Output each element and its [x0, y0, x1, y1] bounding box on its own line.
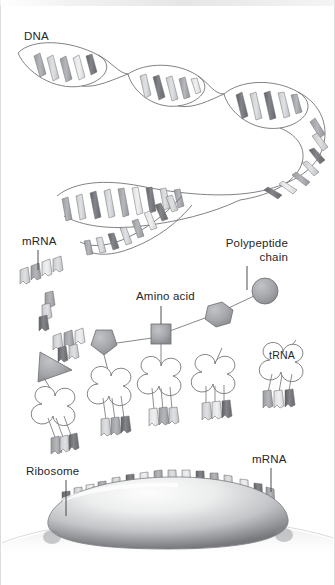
diagram-canvas: tRNA	[0, 0, 335, 585]
trna-label: tRNA	[269, 349, 295, 361]
label-mrna-lower: mRNA	[252, 453, 287, 465]
label-polypeptide-line1: Polypeptide	[226, 237, 288, 249]
amino-acid-square	[151, 324, 171, 344]
label-amino-acid: Amino acid	[136, 290, 195, 302]
amino-acid-circle	[252, 278, 278, 304]
label-mrna-upper: mRNA	[22, 235, 57, 247]
protein-synthesis-diagram: tRNA	[0, 0, 335, 585]
label-ribosome: Ribosome	[26, 465, 79, 477]
label-polypeptide-line2: chain	[260, 251, 289, 263]
label-dna: DNA	[24, 30, 49, 42]
